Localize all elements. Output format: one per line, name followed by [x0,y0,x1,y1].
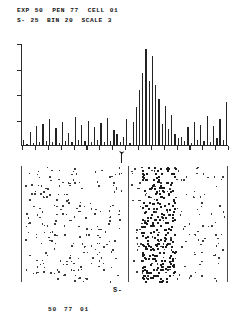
raster-spike [165,272,167,274]
raster-spike [39,208,41,210]
raster-spike [163,257,165,259]
raster-spike [50,272,52,274]
raster-spike-response [147,236,149,238]
raster-spike [36,260,38,262]
raster-spike [47,225,49,227]
s-value: 25 [31,16,40,26]
pen-label: PEN [52,6,65,16]
histogram-bar [52,142,53,146]
raster-spike [73,171,75,173]
raster-spike-response [157,275,159,277]
raster-spike [163,243,165,245]
raster-spike-response [169,275,171,277]
raster-spike-response [164,205,166,207]
raster-spike [180,214,182,216]
raster-spike [223,211,225,213]
raster-spike-response [174,208,176,210]
raster-spike-response [150,188,152,190]
raster-spike-response [142,176,144,178]
raster-spike [64,234,66,236]
raster-spike [137,249,139,251]
histogram-bar [23,140,24,146]
raster-spike-response [143,232,145,234]
footer-pen: 77 [64,306,73,313]
raster-spike [99,243,101,245]
raster-spike [51,170,53,172]
raster-spike-response [153,249,155,251]
raster-spike-response [153,211,155,213]
raster-spike [29,173,31,175]
raster-spike-response [153,275,155,277]
histogram-bar [104,142,105,146]
raster-spike [81,269,83,271]
raster-spike [195,272,197,274]
raster-spike [176,179,178,181]
raster-spike [49,176,51,178]
raster-spike [79,211,81,213]
raster-spike [113,185,115,187]
raster-spike [169,188,171,190]
raster-spike [28,217,30,219]
raster-spike [34,193,36,195]
raster-spike [66,214,68,216]
raster-spike [31,184,33,186]
raster-spike-response [145,281,147,283]
raster-spike-response [157,181,159,183]
raster-spike [169,243,171,245]
raster-spike [37,214,39,216]
raster-spike-response [157,234,159,236]
raster-spike [29,255,31,257]
raster-spike [37,272,39,274]
raster-spike [56,214,58,216]
raster-spike-response [153,179,155,181]
raster-spike [139,229,141,231]
raster-spike-response [170,229,172,231]
raster-spike [42,211,44,213]
raster-spike [119,173,121,175]
raster-spike [42,260,44,262]
histogram-bars [22,44,228,146]
raster-spike-response [172,205,174,207]
histogram-bar [71,142,72,146]
raster-spike [68,202,70,204]
raster-spike-response [155,260,157,262]
histogram-bar [42,124,43,146]
histogram-bar [178,138,179,146]
raster-spike-response [162,269,164,271]
histogram-bar [133,122,134,146]
raster-spike-response [153,184,155,186]
raster-spike [198,239,200,241]
header-line-2: S-25BIN20SCALE3 [17,16,227,26]
raster-spike-response [165,268,167,270]
raster-spike-response [172,241,174,243]
recording-header: EXP50PEN77CELL01 S-25BIN20SCALE3 [17,6,227,25]
histogram-x-tick [86,146,87,150]
raster-spike [197,231,199,233]
raster-spike [44,225,46,227]
raster-spike [132,173,134,175]
histogram-bar [200,125,201,146]
raster-spike [98,185,100,187]
raster-spike [207,177,209,179]
raster-spike-response [167,170,169,172]
raster-spike [79,236,81,238]
raster-spike-response [174,234,176,236]
histogram-bar [78,140,79,146]
raster-spike-response [158,272,160,274]
raster-spike [81,188,83,190]
raster-spike [73,263,75,265]
raster-spike [80,202,82,204]
raster-spike-response [157,202,159,204]
raster-right-right-border [227,166,228,282]
raster-spike [132,200,134,202]
raster-spike [97,226,99,228]
raster-spike [219,205,221,207]
raster-spike [40,193,42,195]
raster-spike [56,206,58,208]
raster-spike [70,255,72,257]
raster-spike-response [152,222,154,224]
raster-spike [196,168,198,170]
exp-value: 50 [35,6,44,16]
raster-spike [181,246,183,248]
raster-spike [37,266,39,268]
